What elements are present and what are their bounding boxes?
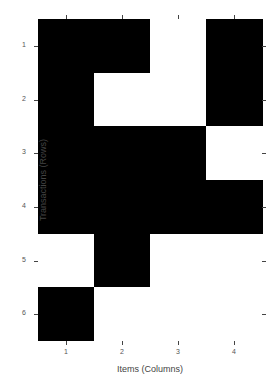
y-tick-label: 6 bbox=[18, 309, 30, 316]
y-tick bbox=[262, 100, 266, 101]
y-tick bbox=[262, 207, 266, 208]
y-tick bbox=[34, 207, 38, 208]
matrix-cell bbox=[150, 126, 207, 180]
matrix-cell bbox=[94, 73, 151, 127]
matrix-cell bbox=[206, 180, 263, 234]
matrix-cell bbox=[206, 126, 263, 180]
y-tick bbox=[262, 46, 266, 47]
x-tick-label: 2 bbox=[116, 348, 128, 355]
matrix-cell bbox=[94, 126, 151, 180]
matrix-cell bbox=[206, 19, 263, 73]
y-tick bbox=[34, 153, 38, 154]
y-tick bbox=[262, 153, 266, 154]
y-tick bbox=[34, 100, 38, 101]
matrix-cell bbox=[94, 287, 151, 341]
y-tick-label: 5 bbox=[18, 256, 30, 263]
y-tick bbox=[262, 314, 266, 315]
x-tick bbox=[122, 15, 123, 19]
y-tick-label: 1 bbox=[18, 41, 30, 48]
x-tick bbox=[66, 15, 67, 19]
y-tick-label: 3 bbox=[18, 148, 30, 155]
x-tick bbox=[178, 15, 179, 19]
matrix-cell bbox=[94, 19, 151, 73]
x-tick bbox=[234, 15, 235, 19]
y-tick bbox=[34, 314, 38, 315]
matrix-cell bbox=[150, 73, 207, 127]
matrix-cell bbox=[94, 234, 151, 288]
matrix-cell bbox=[94, 180, 151, 234]
x-tick-label: 4 bbox=[228, 348, 240, 355]
matrix-cell bbox=[206, 234, 263, 288]
matrix-cell bbox=[150, 180, 207, 234]
matrix-cell bbox=[206, 287, 263, 341]
matrix-cell bbox=[206, 73, 263, 127]
x-axis-label: Items (Columns) bbox=[117, 364, 183, 374]
binary-matrix-plot bbox=[38, 19, 262, 341]
matrix-cell bbox=[150, 234, 207, 288]
x-tick bbox=[122, 341, 123, 345]
matrix-cell bbox=[38, 287, 95, 341]
x-tick bbox=[178, 341, 179, 345]
y-tick bbox=[34, 261, 38, 262]
y-tick-label: 4 bbox=[18, 202, 30, 209]
x-tick bbox=[234, 341, 235, 345]
x-tick-label: 1 bbox=[60, 348, 72, 355]
matrix-cell bbox=[38, 19, 95, 73]
matrix-cell bbox=[38, 234, 95, 288]
x-tick bbox=[66, 341, 67, 345]
y-tick-label: 2 bbox=[18, 95, 30, 102]
y-axis-label: Transactions (Rows) bbox=[38, 139, 48, 221]
x-tick-label: 3 bbox=[172, 348, 184, 355]
y-tick bbox=[262, 261, 266, 262]
matrix-cell bbox=[150, 287, 207, 341]
matrix-cell bbox=[38, 73, 95, 127]
y-tick bbox=[34, 46, 38, 47]
matrix-cell bbox=[150, 19, 207, 73]
